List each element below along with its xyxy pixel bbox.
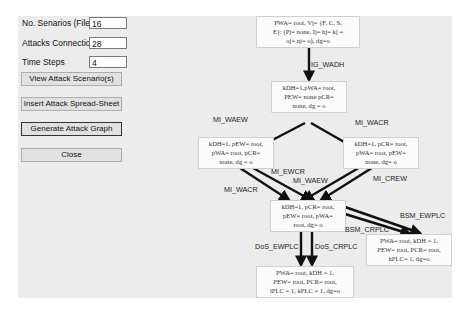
graph-node-plc: PWA= root, kDH = 1, PEW= root, PCR= root… — [256, 266, 354, 298]
node-text: none, dg= o — [346, 157, 416, 166]
graph-node-all-root: kDH=1, pCR= root, pEW= root, pWA= root, … — [270, 200, 346, 232]
edge-label-mi-waew: MI_WAEW — [213, 115, 248, 124]
node-text: none, dg = o — [201, 157, 271, 166]
edge-label-dos-crplc: DoS_CRPLC — [315, 242, 357, 251]
edge-label-bsm-ewplc: BSM_EWPLC — [400, 211, 445, 220]
node-text: kDH=1, pCR= root, — [346, 139, 416, 148]
node-text: PWA= root, Vj= {F, C, S, — [259, 18, 357, 27]
node-text: root, dg= o — [273, 220, 343, 229]
node-text: kDH=1, pEW= root, — [201, 139, 271, 148]
node-text: PWA= root, kDH = 1, — [259, 268, 351, 277]
graph-node-pcr: kDH=1, pCR= root, pWA= root, pEW= none, … — [343, 137, 419, 169]
node-text: pEW= root, pWA= — [273, 211, 343, 220]
node-text: PEW= none pCR= — [274, 92, 344, 101]
node-text: kDH=1, pCR= root, — [273, 202, 343, 211]
node-text: pWA= root, pEW= — [346, 148, 416, 157]
edge-label-mi-wacr-2: MI_WACR — [224, 185, 258, 194]
graph-node-hplc: PWA= root, kDH = 1, PEW= root, PCR= root… — [366, 234, 452, 266]
edge-label-dos-ewplc: DoS_EWPLC — [255, 242, 299, 251]
edge-label-mi-ewcr: MI_EWCR — [271, 167, 305, 176]
node-text: none, dg = o — [274, 101, 344, 110]
edge-label-mi-crew: MI_CREW — [373, 174, 407, 183]
node-text: hPLC= 1, dg=o — [369, 254, 449, 263]
node-text: oj= nj= o), dg=o — [259, 36, 357, 45]
graph-node-initial: PWA= root, Vj= {F, C, S, E}: (Pj= none, … — [256, 16, 360, 48]
node-text: pWA= root, pCR= — [201, 148, 271, 157]
node-text: PEW= root, PCR= root, — [369, 245, 449, 254]
graph-node-kdh: kDH=1,pWA= root, PEW= none pCR= none, dg… — [271, 81, 347, 113]
edge-label-bsm-crplc: BSM_CRPLC — [345, 225, 389, 234]
node-text: PEW= root, PCR= root, — [259, 277, 351, 286]
edge-label-ig-wadh: IG_WADH — [311, 60, 344, 69]
edge-label-mi-waew-2: MI_WAEW — [293, 176, 328, 185]
edge-label-mi-wacr: MI_WACR — [355, 118, 389, 127]
node-text: kDH=1,pWA= root, — [274, 83, 344, 92]
graph-node-pew: kDH=1, pEW= root, pWA= root, pCR= none, … — [198, 137, 274, 169]
node-text: lPLC = 1, kPLC = 1, dg=o — [259, 286, 351, 295]
node-text: PWA= root, kDH = 1, — [369, 236, 449, 245]
node-text: E}: (Pj= none, Ij= hj= kj = — [259, 27, 357, 36]
